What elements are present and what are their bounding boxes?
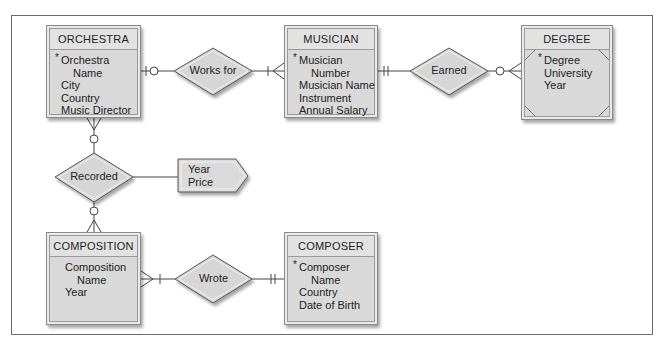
entity-title: DEGREE	[525, 29, 609, 50]
entity-title: COMPOSITION	[50, 236, 137, 257]
crowfoot-icon	[273, 63, 284, 71]
relationship-label-wrote: Wrote	[175, 272, 252, 284]
entity-attribute: Name	[65, 274, 140, 287]
crowfoot-icon	[87, 118, 94, 130]
crowfoot-icon	[141, 271, 153, 279]
weak-entity-corner-icon	[525, 106, 535, 116]
entity-degree: DEGREE *Degree University Year	[521, 25, 613, 120]
entity-attribute: Year	[65, 286, 140, 299]
entity-attribute: Musician	[299, 54, 342, 66]
entity-attribute: Orchestra	[61, 54, 109, 66]
entity-attribute: City	[61, 79, 140, 92]
entity-attribute: Number	[299, 67, 377, 80]
relationship-attribute: Price	[188, 176, 213, 189]
relationship-label-recorded: Recorded	[55, 170, 133, 182]
entity-attribute: Name	[299, 274, 377, 287]
entity-musician: MUSICIAN *Musician Number Musician Name …	[284, 25, 378, 118]
entity-attribute: Date of Birth	[299, 299, 377, 312]
entity-attribute: Country	[299, 286, 377, 299]
key-marker: *	[293, 52, 297, 65]
entity-composer: COMPOSER *Composer Name Country Date of …	[284, 232, 378, 325]
key-marker: *	[538, 52, 542, 65]
entity-title: COMPOSER	[288, 236, 374, 257]
key-marker: *	[55, 52, 59, 65]
relationship-attributes: Year Price	[188, 163, 213, 188]
entity-title: MUSICIAN	[288, 29, 374, 50]
entity-attribute: Composition	[65, 261, 140, 274]
zero-circle-icon	[496, 67, 504, 75]
entity-attribute: Annual Salary	[299, 104, 377, 117]
zero-circle-icon	[90, 207, 98, 215]
entity-attribute: University	[544, 67, 612, 80]
entity-orchestra: ORCHESTRA *Orchestra Name City Country M…	[46, 25, 141, 118]
entity-attribute: Country	[61, 92, 140, 105]
zero-circle-icon	[90, 135, 98, 143]
entity-attribute: Instrument	[299, 92, 377, 105]
relationship-label-earned: Earned	[410, 64, 488, 76]
relationship-attribute: Year	[188, 163, 213, 176]
zero-circle-icon	[150, 67, 158, 75]
entity-attribute: Year	[544, 79, 612, 92]
relationship-label-works-for: Works for	[174, 64, 252, 76]
entity-title: ORCHESTRA	[50, 29, 137, 50]
crowfoot-icon	[87, 220, 94, 232]
entity-attribute: Musician Name	[299, 79, 377, 92]
key-marker: *	[293, 259, 297, 272]
crowfoot-icon	[509, 63, 521, 71]
entity-composition: COMPOSITION Composition Name Year	[46, 232, 141, 325]
entity-attribute: Composer	[299, 261, 350, 273]
entity-attribute: Degree	[544, 54, 580, 66]
entity-attribute: Music Director	[61, 104, 140, 117]
weak-entity-corner-icon	[599, 106, 609, 116]
entity-attribute: Name	[61, 67, 140, 80]
